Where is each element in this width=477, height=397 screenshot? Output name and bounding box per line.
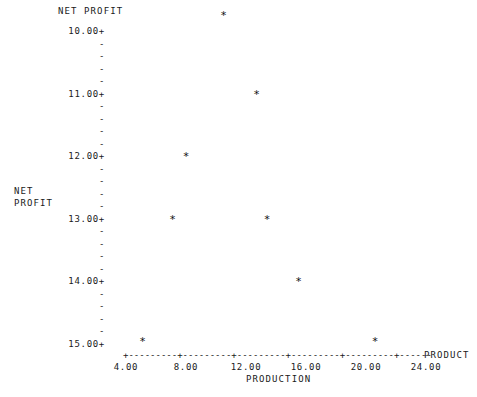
asterisk-icon: * xyxy=(183,154,190,159)
y-axis-minor-tick: - xyxy=(59,289,105,299)
data-point-marker: * xyxy=(221,13,226,18)
data-point-marker: * xyxy=(170,216,175,221)
x-axis-tick-label: 24.00 xyxy=(406,362,446,372)
y-axis-minor-tick: - xyxy=(59,176,105,186)
asterisk-icon: * xyxy=(220,13,227,18)
y-axis-minor-tick: - xyxy=(59,101,105,111)
y-axis-minor-tick: - xyxy=(59,51,105,61)
y-axis-tick-label: 15.00+ xyxy=(59,339,105,349)
y-axis-minor-tick: - xyxy=(59,239,105,249)
y-axis-tick-label: 10.00+ xyxy=(59,26,105,36)
y-axis-minor-tick: - xyxy=(59,76,105,86)
x-axis-tick-label: 12.00 xyxy=(226,362,266,372)
asterisk-icon: * xyxy=(372,338,379,343)
y-axis-tick-label: 11.00+ xyxy=(59,89,105,99)
asterisk-icon: * xyxy=(139,338,146,343)
scatter-plot-figure: NET PROFIT NET PROFIT 15.00+14.00+13.00+… xyxy=(0,0,477,397)
y-axis-minor-tick: - xyxy=(59,189,105,199)
x-axis-tick-label: 16.00 xyxy=(286,362,326,372)
y-axis-minor-tick: - xyxy=(59,164,105,174)
data-point-marker: * xyxy=(296,279,301,284)
y-axis-minor-tick: - xyxy=(59,326,105,336)
y-axis-minor-tick: - xyxy=(59,64,105,74)
y-axis-minor-tick: - xyxy=(59,226,105,236)
y-axis-minor-tick: - xyxy=(59,39,105,49)
data-point-marker: * xyxy=(140,338,145,343)
y-axis-minor-tick: - xyxy=(59,301,105,311)
y-axis-minor-tick: - xyxy=(59,114,105,124)
asterisk-icon: * xyxy=(264,216,271,221)
y-axis-tick-label: 14.00+ xyxy=(59,276,105,286)
asterisk-icon: * xyxy=(169,216,176,221)
data-point-marker: * xyxy=(265,216,270,221)
y-axis-minor-tick: - xyxy=(59,264,105,274)
chart-title: NET PROFIT xyxy=(58,6,123,16)
x-axis-tick-label: 20.00 xyxy=(346,362,386,372)
y-axis-tick-label: 12.00+ xyxy=(59,151,105,161)
y-axis-label-line1: NET xyxy=(14,185,34,197)
data-point-marker: * xyxy=(184,154,189,159)
data-point-marker: * xyxy=(254,91,259,96)
y-axis-minor-tick: - xyxy=(59,126,105,136)
y-axis-minor-tick: - xyxy=(59,251,105,261)
x-axis-tick-label: 4.00 xyxy=(106,362,146,372)
x-axis-caption: PRODUCTION xyxy=(246,374,311,384)
x-axis-end-label: PRODUCT xyxy=(424,350,470,360)
data-point-marker: * xyxy=(373,338,378,343)
y-axis-label-line2: PROFIT xyxy=(14,197,53,209)
y-axis-minor-tick: - xyxy=(59,201,105,211)
y-axis-minor-tick: - xyxy=(59,139,105,149)
y-axis-minor-tick: - xyxy=(59,314,105,324)
x-axis-line: +---------+---------+---------+---------… xyxy=(123,350,432,360)
asterisk-icon: * xyxy=(253,91,260,96)
y-axis-tick-label: 13.00+ xyxy=(59,214,105,224)
asterisk-icon: * xyxy=(295,279,302,284)
x-axis-tick-label: 8.00 xyxy=(166,362,206,372)
